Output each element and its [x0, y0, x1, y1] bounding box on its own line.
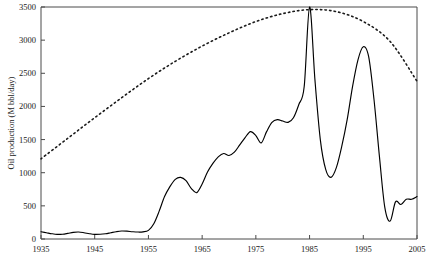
x-tick-label: 1995	[355, 244, 372, 254]
x-tick-label: 2005	[409, 244, 426, 254]
x-tick-label: 1945	[86, 244, 103, 254]
x-tick-label: 1985	[301, 244, 318, 254]
y-axis-title-text: Oil production (M bbl/day)	[6, 76, 16, 169]
x-tick-label: 1975	[247, 244, 264, 254]
y-tick-label: 3500	[19, 2, 36, 12]
y-tick-label: 3000	[19, 35, 36, 45]
y-tick-label: 500	[23, 201, 36, 211]
y-tick-label: 2000	[19, 101, 36, 111]
y-tick-label: 1000	[19, 168, 36, 178]
x-tick-label: 1935	[33, 244, 50, 254]
y-tick-label: 2500	[19, 68, 36, 78]
chart-figure: 0500100015002000250030003500 19351945195…	[0, 0, 431, 267]
x-tick-label: 1955	[140, 244, 157, 254]
y-axis-title: Oil production (M bbl/day)	[6, 76, 16, 169]
y-tick-label: 0	[32, 234, 36, 244]
oil-production-line-chart: 0500100015002000250030003500 19351945195…	[0, 0, 431, 267]
x-tick-label: 1965	[194, 244, 211, 254]
y-tick-label: 1500	[19, 135, 36, 145]
